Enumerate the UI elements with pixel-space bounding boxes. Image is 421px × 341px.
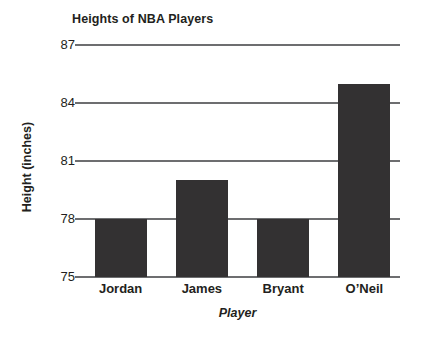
- chart-title: Heights of NBA Players: [72, 12, 213, 26]
- x-tick-label-bryant: Bryant: [240, 281, 326, 296]
- bar-james: [176, 180, 228, 277]
- gridline-87: [75, 44, 400, 46]
- bar-oneil: [338, 84, 390, 277]
- x-tick-label-oneil: O’Neil: [321, 281, 407, 296]
- bar-bryant: [257, 219, 309, 277]
- bar-jordan: [95, 219, 147, 277]
- y-tick-label-81: 81: [45, 154, 75, 167]
- y-axis-title: Height (inches): [20, 97, 34, 237]
- y-tick-label-84: 84: [45, 96, 75, 109]
- y-tick-label-75: 75: [45, 270, 75, 283]
- x-tick-labels: Jordan James Bryant O’Neil: [75, 281, 400, 301]
- bar-chart-figure: Heights of NBA Players Height (inches) 8…: [0, 0, 421, 341]
- x-tick-label-james: James: [159, 281, 245, 296]
- y-tick-label-87: 87: [45, 38, 75, 51]
- y-tick-label-78: 78: [45, 212, 75, 225]
- x-axis-title: Player: [75, 306, 400, 320]
- x-tick-label-jordan: Jordan: [78, 281, 164, 296]
- plot-area: [75, 45, 400, 277]
